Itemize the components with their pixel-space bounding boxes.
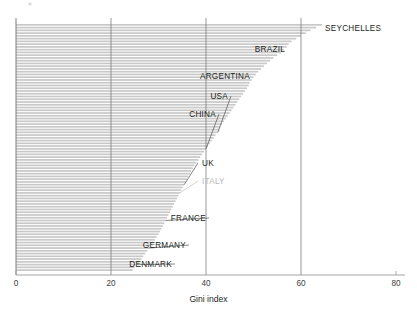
bar [16,184,184,186]
country-label-china: CHINA [189,110,216,119]
image-artifact-speck [28,2,31,5]
bar [16,104,235,106]
bar [16,145,208,147]
bar [16,126,220,128]
country-label-argentina: ARGENTINA [200,72,250,81]
bar [16,154,202,156]
bar [16,87,247,89]
x-tick-label: 40 [201,279,211,288]
bar [16,57,273,59]
bar [16,167,193,169]
bar [16,231,160,233]
bar [16,189,181,191]
country-label-france: FRANCE [171,214,206,223]
bar [16,65,264,67]
bar [16,24,322,26]
bar [16,181,186,183]
bar [16,261,140,263]
bar [16,244,151,246]
bar [16,187,183,189]
bar [16,68,261,70]
bar [16,198,177,200]
bar [16,93,243,95]
bar [16,225,163,227]
bar [16,43,289,45]
bar [16,82,250,84]
bar [16,200,176,202]
country-label-denmark: DENMARK [129,260,172,269]
bar [16,170,191,172]
bar [16,41,292,43]
bar [16,46,287,48]
bar [16,255,143,257]
bar [16,247,149,249]
bar [16,211,170,213]
x-tick-label: 0 [14,279,19,288]
bar [16,107,234,109]
bar [16,96,241,98]
bar [16,173,190,175]
bar [16,27,316,29]
bar [16,49,284,51]
bar [16,195,178,197]
bar [16,222,164,224]
country-label-usa: USA [210,92,228,101]
bar [16,165,195,167]
bar [16,134,216,136]
bar [16,217,167,219]
x-axis-title: Gini index [189,294,228,304]
bar [16,35,301,37]
bar [16,38,296,40]
bar [16,239,155,241]
bar [16,142,210,144]
country-label-brazil: BRAZIL [255,45,285,54]
bar [16,176,188,178]
bar [16,63,267,65]
bar [16,123,222,125]
bar [16,214,168,216]
bar [16,203,174,205]
x-tick-label: 80 [391,279,401,288]
bar [16,266,135,268]
bar [16,151,204,153]
bar [16,206,173,208]
bar [16,60,270,62]
bar [16,101,237,103]
country-label-italy: ITALY [202,177,225,186]
gini-index-bar-chart: SEYCHELLESBRAZILARGENTINAUSACHINAUKITALY… [0,0,417,312]
tick-labels-group: 020406080 [14,279,401,288]
bar [16,131,218,133]
bar [16,140,212,142]
bar [16,264,137,266]
x-tick-label: 60 [296,279,306,288]
bar [16,137,214,139]
bar [16,52,281,54]
bar [16,220,166,222]
bar [16,236,157,238]
bar [16,192,180,194]
bar [16,129,219,131]
bar [16,253,145,255]
bar [16,233,159,235]
bar [16,156,200,158]
bar [16,120,224,122]
bar [16,228,161,230]
bar [16,269,133,271]
country-label-germany: GERMANY [143,241,186,250]
bar [16,32,306,34]
bar [16,162,197,164]
bar [16,54,277,56]
bar [16,85,249,87]
bar [16,242,153,244]
country-label-seychelles: SEYCHELLES [325,24,381,33]
bar [16,250,147,252]
bar [16,178,187,180]
bars-group [16,24,322,271]
bar [16,209,171,211]
bar [16,258,141,260]
country-label-uk: UK [202,159,214,168]
bar [16,159,198,161]
chart-canvas: SEYCHELLESBRAZILARGENTINAUSACHINAUKITALY… [0,0,417,312]
bar [16,30,311,32]
x-tick-label: 20 [106,279,116,288]
